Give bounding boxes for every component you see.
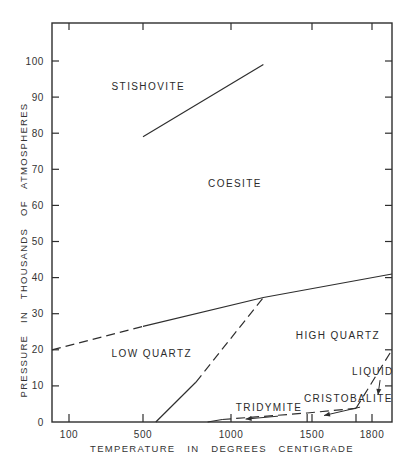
x-tick-label: 1800 [360,429,385,440]
y-tick-label: 100 [26,56,45,67]
y-tick-label: 40 [32,272,44,283]
x-tick-label: 1500 [300,429,325,440]
region-label: HIGH QUARTZ [296,330,380,341]
y-tick-label: 50 [32,236,44,247]
region-label: LOW QUARTZ [112,348,192,359]
y-tick-label: 10 [32,380,44,391]
phase-boundaries [52,65,392,422]
phase-diagram: 1005001000150018000102030405060708090100… [0,0,407,462]
phase-boundary-line [196,298,264,383]
plot-border [52,23,392,422]
phase-boundary-line [143,274,392,326]
phase-boundary-line [156,382,196,422]
phase-boundary-line [52,326,143,350]
y-tick-label: 0 [38,417,44,428]
region-label: LIQUID [352,366,394,377]
y-tick-label: 80 [32,128,44,139]
region-labels: STISHOVITECOESITELOW QUARTZHIGH QUARTZLI… [112,81,394,421]
region-label: COESITE [208,178,262,189]
phase-boundary-line [143,65,263,137]
y-tick-label: 30 [32,308,44,319]
region-label: STISHOVITE [112,81,185,92]
y-axis-title: PRESSURE IN THOUSANDS OF ATMOSPHERES [18,103,29,398]
region-label: TRIDYMITE [236,402,302,413]
axis-ticks: 1005001000150018000102030405060708090100 [26,23,393,440]
y-tick-label: 20 [32,344,44,355]
region-label: CRISTOBALITE [304,393,393,404]
y-tick-label: 60 [32,200,44,211]
x-tick-label: 500 [134,429,153,440]
y-tick-label: 70 [32,164,44,175]
y-tick-label: 90 [32,92,44,103]
x-axis-title: TEMPERATURE IN DEGREES CENTIGRADE [90,443,354,454]
arrow-head-icon [324,412,330,417]
plot-frame [52,23,392,422]
x-tick-label: 100 [60,429,79,440]
x-tick-label: 1000 [219,429,244,440]
